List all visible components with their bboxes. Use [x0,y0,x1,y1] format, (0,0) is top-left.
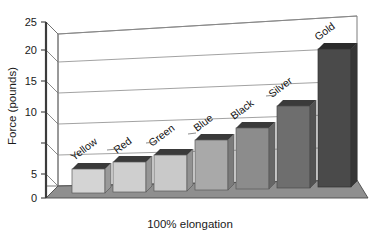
bar-blue [195,134,234,190]
bar-red [113,156,152,192]
bar-label-blue: Blue [191,111,215,133]
y-tick-25: 25 [25,16,37,28]
bar-label-yellow: Yellow [68,135,99,163]
y-axis: 0 5 10 15 20 25 [25,16,46,204]
y-axis-title: Force (pounds) [6,67,18,145]
left-wall [46,22,58,186]
x-axis-title: 100% elongation [147,218,233,230]
y-tick-15: 15 [25,75,37,87]
y-tick-20: 20 [25,44,37,56]
bar-green [154,149,193,191]
y-tick-5: 5 [31,168,37,180]
bar-label-red: Red [111,134,134,155]
bar-yellow [72,163,111,193]
depth-connectors [46,22,58,186]
bar-chart-figure: 0 5 10 15 20 25 [0,0,380,240]
y-tick-10: 10 [25,106,37,118]
chart-canvas: 0 5 10 15 20 25 [0,0,380,240]
bar-label-gold: Gold [312,20,337,43]
bar-label-green: Green [146,121,177,148]
y-tick-0: 0 [31,192,37,204]
bar-gold [318,43,357,187]
bar-black [236,122,275,189]
bar-silver [277,100,316,188]
